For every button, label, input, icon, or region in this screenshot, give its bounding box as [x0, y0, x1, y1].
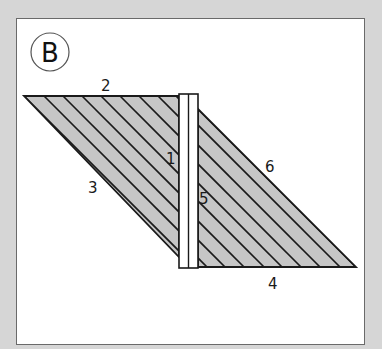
- panel-label: B: [41, 38, 59, 68]
- label-4: 4: [268, 275, 278, 293]
- diagram-svg: B: [0, 0, 382, 349]
- vertical-bar: [179, 94, 198, 268]
- panel-badge: B: [31, 33, 69, 71]
- label-1: 1: [166, 150, 176, 168]
- label-6: 6: [265, 158, 275, 176]
- diagram-canvas: B: [0, 0, 382, 349]
- label-3: 3: [88, 179, 98, 197]
- label-2: 2: [101, 77, 111, 95]
- label-5: 5: [199, 190, 209, 208]
